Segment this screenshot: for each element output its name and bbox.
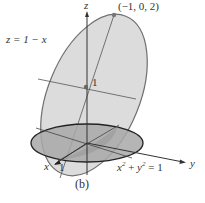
y-axis-arrow: [180, 160, 187, 165]
eq-plus: +: [125, 161, 137, 173]
figure-caption: (b): [75, 177, 89, 192]
z-axis-arrow: [85, 11, 89, 17]
point-center: [84, 85, 88, 89]
point-label: (−1, 0, 2): [118, 0, 159, 12]
center-value-label: 1: [92, 76, 98, 88]
x-tick-label: 1: [59, 161, 65, 173]
x-axis-label: x: [44, 160, 49, 172]
point-top: [112, 13, 116, 17]
diagram-canvas: [0, 0, 205, 203]
z-axis-label: z: [84, 0, 88, 11]
y-axis-label: y: [190, 157, 195, 169]
plane-equation: z = 1 − x: [6, 33, 47, 45]
eq-rest: = 1: [146, 161, 163, 173]
cylinder-equation: x2 + y2 = 1: [117, 160, 163, 173]
